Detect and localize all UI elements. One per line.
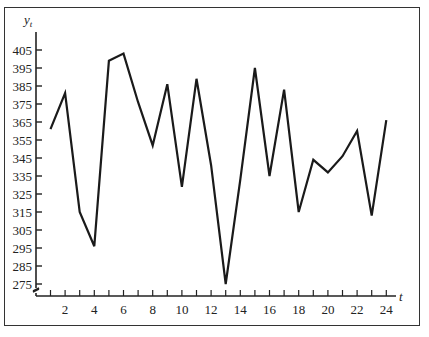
x-tick-label: 14 [234,302,248,317]
x-tick-label: 10 [175,302,188,317]
x-tick-label: 6 [120,302,127,317]
y-tick-label: 355 [13,133,33,148]
x-tick-label: 2 [62,302,69,317]
axes [33,32,396,296]
x-tick-label: 8 [149,302,156,317]
axis-break-icon [33,288,39,292]
y-tick-label: 345 [13,151,33,166]
y-axis-ticks: 2752852953053153253353453553653753853954… [13,43,43,292]
y-tick-label: 325 [13,187,33,202]
y-tick-label: 335 [13,169,33,184]
y-tick-label: 375 [13,97,33,112]
y-axis-label: yt [22,12,33,29]
y-tick-label: 305 [13,223,33,238]
y-tick-label: 405 [13,43,33,58]
line-chart: 2752852953053153253353453553653753853954… [0,0,429,337]
data-series-line [51,54,387,284]
y-tick-label: 395 [13,61,33,76]
x-tick-label: 4 [91,302,98,317]
x-tick-label: 18 [292,302,305,317]
y-tick-label: 315 [13,205,33,220]
y-tick-label: 285 [13,259,33,274]
x-axis-label: t [399,289,403,304]
x-axis-ticks: 24681012141618202224 [51,290,394,317]
x-tick-label: 24 [380,302,394,317]
y-tick-label: 295 [13,241,33,256]
x-tick-label: 20 [321,302,334,317]
y-tick-label: 275 [13,277,33,292]
x-tick-label: 22 [351,302,364,317]
x-tick-label: 12 [205,302,218,317]
y-tick-label: 385 [13,79,33,94]
x-tick-label: 16 [263,302,277,317]
y-tick-label: 365 [13,115,33,130]
